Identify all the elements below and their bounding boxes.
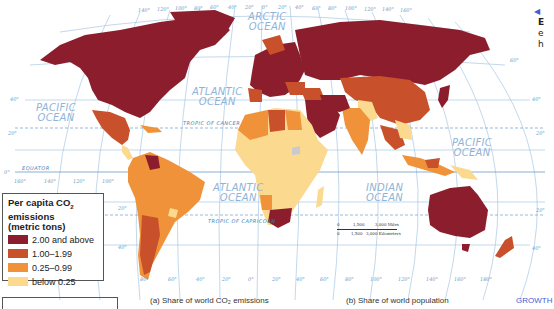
tropic-of-cancer-label: TROPIC OF CANCER: [183, 120, 240, 126]
swatch-high: [8, 249, 28, 258]
legend-title: Per capita CO2 emissions (metric tons): [8, 198, 98, 232]
ocean-label-indian: INDIANOCEAN: [366, 183, 403, 203]
swatch-medium: [8, 263, 28, 272]
equator-label: EQUATOR: [22, 165, 50, 171]
southeast-asia: [402, 155, 478, 180]
legend-item-high: 1.00–1.99: [8, 248, 98, 260]
ocean-label-atlantic-north: ATLANTICOCEAN: [192, 87, 243, 107]
ocean-label-pacific-west: PACIFICOCEAN: [452, 138, 492, 158]
swatch-very-high: [8, 235, 28, 244]
asia: [295, 20, 490, 155]
swatch-low: [8, 277, 28, 286]
caption-b: (b) Share of world population: [346, 296, 449, 305]
caption-a: (a) Share of world CO₂ emissions: [150, 296, 269, 305]
europe: [248, 35, 305, 102]
legend-item-low: below 0.25: [8, 276, 98, 288]
legend-item-very-high: 2.00 and above: [8, 234, 98, 246]
ocean-label-atlantic-south: ATLANTICOCEAN: [213, 183, 264, 203]
arrow-left-icon: ◀: [534, 6, 544, 17]
tropic-of-capricorn-label: TROPIC OF CAPRICORN: [208, 218, 275, 224]
ocean-label-arctic: ARCTICOCEAN: [248, 12, 287, 32]
north-america: [40, 10, 235, 160]
side-note: ◀ E e h: [538, 16, 544, 50]
scale-bar: 0 1,500 3,000 Miles 0 1,500 3,000 Kilome…: [337, 222, 417, 242]
south-america: [128, 152, 205, 280]
growth-link[interactable]: GROWTH: [516, 296, 552, 305]
australia: [428, 186, 514, 258]
bottom-box: [2, 297, 118, 309]
legend-item-medium: 0.25–0.99: [8, 262, 98, 274]
ocean-label-pacific-east: PACIFICOCEAN: [36, 103, 76, 123]
map-legend: Per capita CO2 emissions (metric tons) 2…: [2, 193, 104, 281]
